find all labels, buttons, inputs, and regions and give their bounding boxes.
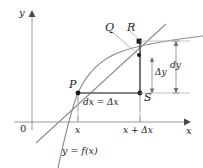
- origin-label: 0: [20, 124, 26, 134]
- point-label-p: P: [69, 79, 76, 90]
- guide-lines-group: [78, 41, 140, 122]
- run-label: dx = Δx: [83, 98, 119, 107]
- curve-label: y = f(x): [62, 146, 98, 156]
- point-label-s: S: [144, 92, 152, 103]
- delta-y-dimension: [150, 57, 154, 94]
- delta-y-arrowhead-top: [150, 57, 154, 62]
- y-axis-label: y: [19, 8, 25, 18]
- dy-arrowhead-top: [174, 41, 179, 46]
- tick-label-x: x: [75, 126, 80, 135]
- x-axis-label: x: [186, 126, 192, 136]
- dy-label: dy: [170, 61, 181, 70]
- delta-y-label: Δy: [155, 68, 167, 77]
- figure-container: y x 0 x x + Δx P Q R S dx = Δx Δy dy y =…: [0, 0, 203, 168]
- point-marker-p: [76, 91, 81, 96]
- point-label-r: R: [127, 22, 135, 33]
- y-axis-arrowhead: [29, 10, 36, 17]
- figure-canvas: [0, 0, 203, 168]
- dy-arrowhead-bottom: [174, 88, 179, 93]
- tick-label-x-plus-delta-x: x + Δx: [123, 126, 153, 135]
- point-label-q: Q: [105, 22, 114, 33]
- point-markers-group: [76, 39, 143, 96]
- tick-marks-group: [78, 116, 140, 122]
